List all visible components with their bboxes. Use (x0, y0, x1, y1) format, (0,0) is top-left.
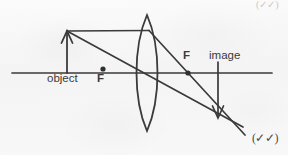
ray-diagram-canvas (0, 0, 288, 155)
grading-checkmarks: (✓✓) (252, 132, 278, 144)
focal-point-left-dot (100, 66, 105, 71)
parallel-ray-incident (67, 31, 149, 32)
grading-mark-top-faint: (✓✓) (256, 0, 279, 10)
focal-label-right: F (183, 50, 190, 62)
object-label: object (47, 73, 78, 85)
ray-diagram-figure: object F F image (✓✓) (✓✓) (0, 0, 288, 155)
focal-label-left: F (97, 73, 104, 85)
focal-point-right-dot (185, 70, 190, 75)
image-label: image (209, 50, 240, 62)
